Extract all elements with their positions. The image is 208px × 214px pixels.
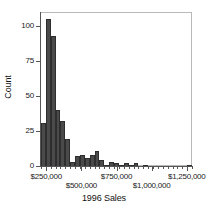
- histogram-bars: [41, 12, 192, 166]
- y-axis-tick-label: 0: [30, 162, 34, 170]
- y-axis-tick-label: 25: [26, 127, 35, 135]
- x-axis-minor-tick: [75, 167, 76, 169]
- x-axis-minor-tick: [153, 167, 154, 169]
- x-axis-minor-tick: [51, 167, 52, 169]
- histogram-bar: [187, 165, 192, 166]
- x-axis-minor-tick: [138, 167, 139, 169]
- x-axis-tick: [152, 167, 153, 171]
- x-axis-tick-label: $1,000,000: [133, 181, 171, 190]
- histogram-figure: 0255075100 $250,000$500,000$750,000$1,00…: [0, 0, 208, 214]
- x-axis-minor-tick: [163, 167, 164, 169]
- x-axis-minor-tick: [143, 167, 144, 169]
- y-axis-tick: [36, 26, 40, 27]
- y-axis-tick: [36, 61, 40, 62]
- x-axis-tick: [117, 167, 118, 171]
- y-axis-title: Count: [3, 57, 13, 117]
- x-axis-minor-tick: [70, 167, 71, 169]
- x-axis-minor-tick: [114, 167, 115, 169]
- x-axis-minor-tick: [104, 167, 105, 169]
- x-axis-minor-tick: [173, 167, 174, 169]
- x-axis-title: 1996 Sales: [0, 193, 208, 203]
- x-axis-minor-tick: [168, 167, 169, 169]
- x-axis-tick: [46, 167, 47, 171]
- y-axis-tick-label: 100: [21, 22, 34, 30]
- x-axis-minor-tick: [158, 167, 159, 169]
- x-axis-minor-tick: [56, 167, 57, 169]
- x-axis-minor-tick: [85, 167, 86, 169]
- x-axis-minor-tick: [95, 167, 96, 169]
- y-axis-tick-label: 50: [26, 92, 35, 100]
- x-axis-tick-label: $500,000: [66, 181, 97, 190]
- y-axis-tick: [36, 166, 40, 167]
- x-axis-tick: [187, 167, 188, 171]
- x-axis-minor-tick: [65, 167, 66, 169]
- x-axis-minor-tick: [99, 167, 100, 169]
- x-axis-minor-tick: [129, 167, 130, 169]
- histogram-bar: [134, 163, 139, 166]
- x-axis-minor-tick: [119, 167, 120, 169]
- x-axis-tick-label: $250,000: [31, 172, 62, 181]
- histogram-bar: [143, 165, 148, 166]
- x-axis-minor-tick: [60, 167, 61, 169]
- x-axis-minor-tick: [109, 167, 110, 169]
- y-axis-tick: [36, 131, 40, 132]
- x-axis-minor-tick: [90, 167, 91, 169]
- x-axis-minor-tick: [192, 167, 193, 169]
- x-axis-minor-tick: [124, 167, 125, 169]
- x-axis-tick-label: $1,250,000: [168, 172, 206, 181]
- x-axis-tick-label: $750,000: [101, 172, 132, 181]
- x-axis-minor-tick: [182, 167, 183, 169]
- x-axis-minor-tick: [41, 167, 42, 169]
- x-axis-tick: [81, 167, 82, 171]
- y-axis-tick-label: 75: [26, 57, 35, 65]
- x-axis-minor-tick: [148, 167, 149, 169]
- x-axis-minor-tick: [177, 167, 178, 169]
- y-axis-tick: [36, 96, 40, 97]
- x-axis-minor-tick: [134, 167, 135, 169]
